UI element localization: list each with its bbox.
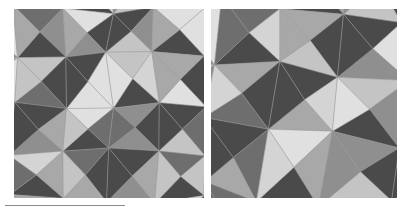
right-tessellation-svg [211, 9, 397, 198]
panel-left-tessellation [14, 9, 204, 198]
figure-root [0, 0, 411, 214]
left-tessellation-svg [14, 9, 204, 198]
horizontal-rule-divider [5, 205, 125, 206]
panel-right-tessellation [211, 9, 397, 198]
